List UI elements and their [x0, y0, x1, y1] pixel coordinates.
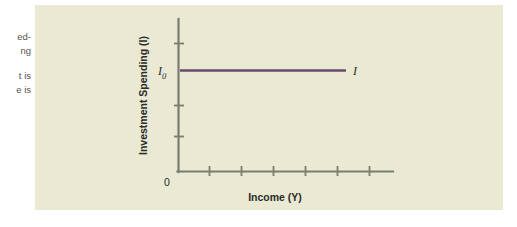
body-text-line-2: ng — [0, 44, 31, 58]
body-text-line-3: t is — [0, 69, 31, 83]
body-paragraph-2: t is e is — [0, 69, 33, 96]
origin-label: 0 — [164, 176, 170, 188]
y-tick-label-subscript: 0 — [162, 71, 167, 81]
body-text-line-1: ed- — [0, 30, 31, 44]
y-axis-title: Investment Spending (I) — [137, 36, 149, 155]
x-axis-title: Income (Y) — [248, 191, 302, 203]
investment-spending-chart: I I0 0 Investment Spending (I) Income (Y… — [35, 5, 503, 210]
chart-svg: I I0 0 Investment Spending (I) Income (Y… — [35, 5, 503, 210]
body-text-column: ed- ng t is e is — [0, 30, 33, 120]
investment-line-label: I — [352, 64, 358, 78]
body-text-line-4: e is — [0, 83, 31, 97]
body-paragraph-1: ed- ng — [0, 30, 33, 57]
figure-page: ed- ng t is e is — [0, 0, 517, 227]
y-axis-tick-label-i0: I0 — [157, 64, 167, 81]
